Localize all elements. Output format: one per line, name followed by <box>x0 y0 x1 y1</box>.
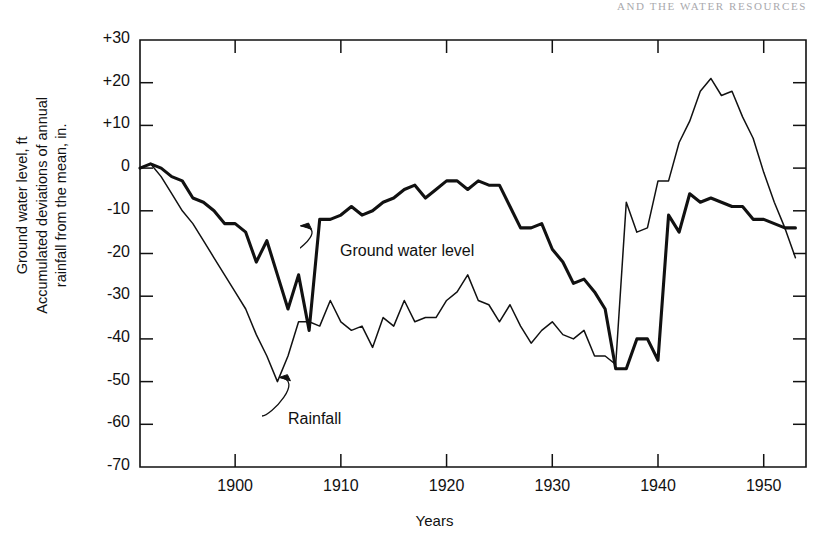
annotation-label-rainfall: Rainfall <box>288 410 341 428</box>
series-line-rainfall <box>140 78 795 381</box>
x-axis-tick-label: 1950 <box>734 477 794 495</box>
y-axis-tick-label: -60 <box>55 413 130 431</box>
y-axis-tick-label: -50 <box>55 371 130 389</box>
annotation-leader-line <box>262 377 289 416</box>
x-axis-tick-label: 1900 <box>205 477 265 495</box>
y-axis-tick-label: -30 <box>55 285 130 303</box>
y-axis-tick-label: +10 <box>55 114 130 132</box>
y-axis-tick-label: +30 <box>55 29 130 47</box>
figure: AND THE WATER RESOURCES Ground water lev… <box>0 0 829 546</box>
annotation-arrowhead <box>301 223 312 229</box>
y-axis-tick-label: -40 <box>55 328 130 346</box>
series-line-ground-water-level <box>140 164 795 369</box>
y-axis-tick-label: 0 <box>55 157 130 175</box>
y-axis-tick-label: -20 <box>55 243 130 261</box>
y-axis-tick-label: -10 <box>55 200 130 218</box>
x-axis-tick-label: 1940 <box>628 477 688 495</box>
y-axis-tick-label: +20 <box>55 72 130 90</box>
y-axis-tick-label: -70 <box>55 456 130 474</box>
x-axis-tick-label: 1920 <box>417 477 477 495</box>
annotation-label-ground-water-level: Ground water level <box>340 242 474 260</box>
x-axis-tick-label: 1910 <box>311 477 371 495</box>
annotation-arrowhead <box>279 375 290 381</box>
x-axis-tick-label: 1930 <box>522 477 582 495</box>
